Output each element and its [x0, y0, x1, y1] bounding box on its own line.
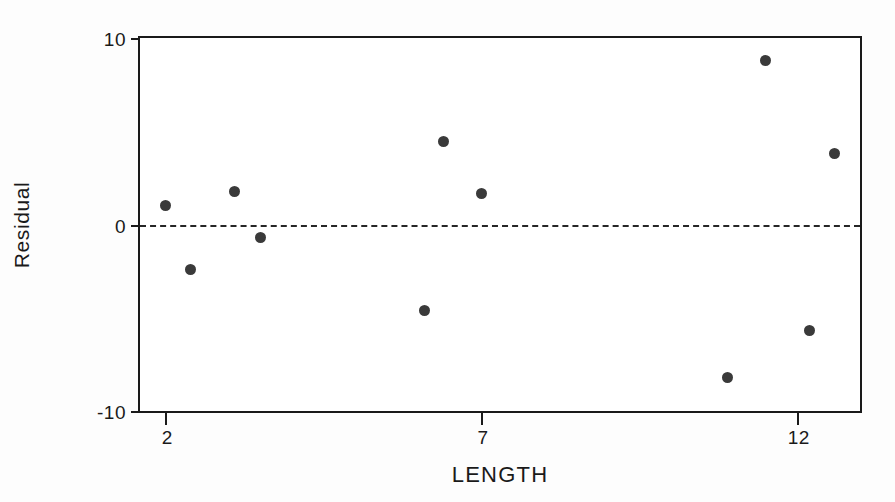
data-point: [419, 305, 430, 316]
x-tick-7: 7: [481, 411, 483, 425]
data-point: [160, 200, 171, 211]
zero-residual-reference-line: [140, 225, 860, 227]
x-tick-12: 12: [797, 411, 799, 425]
x-tick-label: 7: [478, 427, 489, 449]
y-tick-label: 10: [104, 29, 126, 51]
data-point: [722, 372, 733, 383]
x-tick-label: 2: [162, 427, 173, 449]
y-tick-label: -10: [97, 402, 126, 424]
y-tick-label: 0: [115, 216, 126, 238]
data-point: [255, 232, 266, 243]
data-point: [760, 55, 771, 66]
data-point: [229, 186, 240, 197]
x-tick-2: 2: [165, 411, 167, 425]
y-axis-title: Residual: [10, 182, 34, 269]
residual-plot-figure: 100-10 2712 Residual LENGTH: [0, 0, 895, 502]
y-tick--10: -10: [131, 411, 140, 413]
data-point: [438, 136, 449, 147]
data-point: [476, 188, 487, 199]
y-tick-0: 0: [131, 225, 140, 227]
data-point: [829, 148, 840, 159]
x-axis-title: LENGTH: [452, 462, 548, 488]
plot-area: 100-10 2712: [138, 36, 862, 413]
x-tick-label: 12: [788, 427, 810, 449]
y-tick-10: 10: [131, 38, 140, 40]
data-point: [185, 264, 196, 275]
data-point: [804, 325, 815, 336]
